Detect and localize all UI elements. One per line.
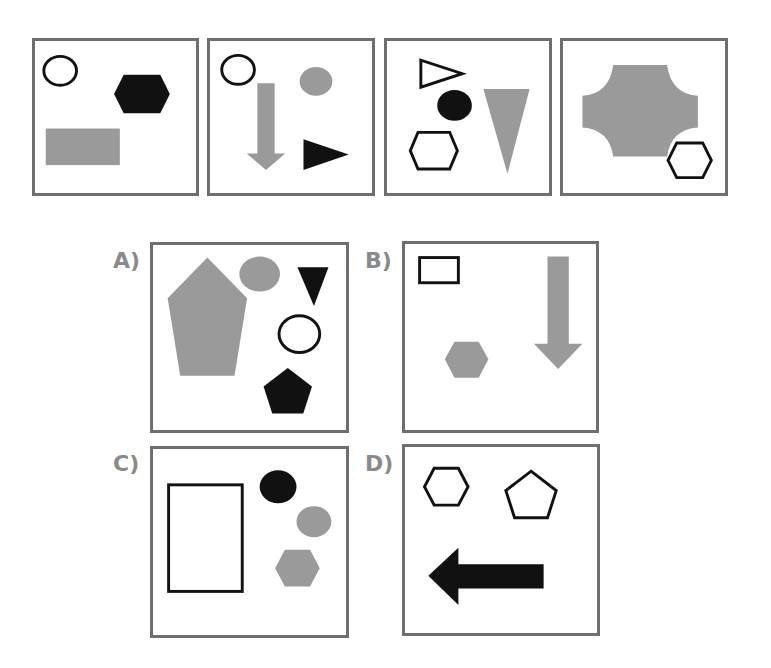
gray-down-triangle-shape bbox=[483, 89, 529, 174]
outline-hexagon-shape bbox=[668, 143, 711, 178]
black-circle-shape bbox=[437, 90, 472, 121]
gray-circle-shape bbox=[239, 257, 280, 292]
gray-hexagon-shape bbox=[445, 342, 489, 378]
outline-rectangle-shape bbox=[169, 485, 243, 592]
option-a-panel[interactable] bbox=[150, 242, 349, 433]
option-b-panel[interactable] bbox=[402, 241, 599, 433]
outline-hexagon-shape bbox=[424, 468, 468, 505]
gray-rectangle-shape bbox=[46, 129, 120, 166]
option-label-d: D) bbox=[365, 451, 393, 476]
gray-pentagon-shape bbox=[168, 258, 247, 376]
option-label-b: B) bbox=[365, 248, 392, 273]
black-hexagon-shape bbox=[114, 75, 170, 113]
option-label-c: C) bbox=[113, 451, 139, 476]
outline-rectangle-shape bbox=[420, 258, 459, 283]
outline-pentagon-shape bbox=[506, 471, 556, 518]
sequence-panel-1 bbox=[32, 38, 199, 196]
black-circle-shape bbox=[260, 470, 297, 503]
option-label-a: A) bbox=[113, 248, 140, 273]
gray-down-arrow-shape bbox=[534, 257, 582, 369]
outline-right-triangle-shape bbox=[421, 60, 462, 87]
sequence-panel-4 bbox=[560, 38, 728, 196]
black-down-triangle-shape bbox=[297, 267, 328, 306]
black-pentagon-shape bbox=[264, 368, 312, 414]
outline-hexagon-shape bbox=[410, 132, 457, 169]
gray-circle-shape bbox=[300, 67, 333, 96]
option-c-panel[interactable] bbox=[150, 446, 349, 638]
option-d-panel[interactable] bbox=[402, 444, 600, 636]
sequence-panel-3 bbox=[384, 38, 552, 196]
gray-down-arrow-shape bbox=[247, 83, 285, 170]
outline-circle-shape bbox=[44, 56, 77, 85]
black-right-triangle-shape bbox=[304, 139, 349, 170]
black-left-arrow-shape bbox=[428, 548, 543, 605]
sequence-panel-2 bbox=[207, 38, 375, 196]
gray-hexagon-shape bbox=[275, 550, 320, 587]
outline-circle-shape bbox=[279, 316, 320, 353]
gray-circle-shape bbox=[296, 506, 331, 537]
outline-circle-shape bbox=[222, 55, 255, 84]
